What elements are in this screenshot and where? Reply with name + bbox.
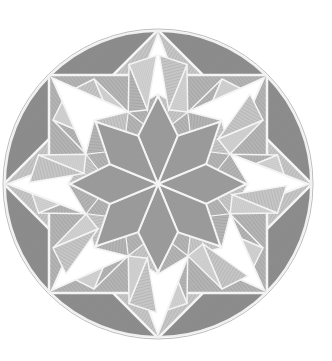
central-rhombus-star — [70, 96, 246, 272]
mandala-figure — [0, 0, 332, 361]
mandala-group — [0, 14, 328, 353]
